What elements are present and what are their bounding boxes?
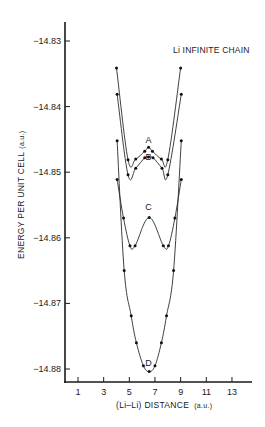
y-tick-label: −14.88 (33, 364, 61, 374)
data-point (180, 178, 183, 181)
data-point (161, 167, 164, 170)
data-point (128, 244, 131, 247)
curves (115, 66, 183, 373)
data-point (123, 269, 126, 272)
data-point (165, 314, 168, 317)
axes (64, 22, 252, 383)
data-point (166, 173, 169, 176)
data-point (147, 146, 150, 149)
data-point (166, 158, 169, 161)
y-tick-label: −14.85 (33, 167, 61, 177)
x-tick-label: 13 (227, 387, 237, 397)
curve-label-b: B (146, 152, 152, 162)
y-tick-label: −14.86 (33, 233, 61, 243)
x-tick-label: 9 (178, 387, 183, 397)
curve-label-c: C (145, 202, 152, 212)
data-point (134, 158, 137, 161)
energy-distance-chart: Li INFINITE CHAIN −14.83−14.84−14.85−14.… (0, 0, 265, 427)
y-tick-label: −14.83 (33, 36, 61, 46)
curve-c (117, 179, 181, 249)
curve-label-a: A (146, 135, 152, 145)
data-point (153, 364, 156, 367)
data-point (135, 341, 138, 344)
data-point (134, 244, 137, 247)
y-axis-label: ENERGY PER UNIT CELL(a.u.) (16, 131, 26, 259)
curve-label-d: D (145, 358, 152, 368)
data-point (134, 167, 137, 170)
y-tick-label: −14.87 (33, 298, 61, 308)
data-point (148, 370, 151, 373)
x-ticks: 135791113 (75, 377, 236, 397)
data-point (162, 244, 165, 247)
data-point (160, 341, 163, 344)
data-point (167, 244, 170, 247)
data-point (116, 139, 119, 142)
data-point (180, 93, 183, 96)
x-tick-label: 11 (202, 387, 211, 397)
data-point (160, 158, 163, 161)
x-tick-label: 7 (152, 387, 157, 397)
data-point (115, 66, 118, 69)
x-tick-label: 3 (101, 387, 106, 397)
data-point (127, 173, 130, 176)
chart-title: Li INFINITE CHAIN (173, 45, 250, 55)
data-point (172, 269, 175, 272)
x-tick-label: 5 (127, 387, 132, 397)
x-tick-label: 1 (75, 387, 80, 397)
data-point (116, 178, 119, 181)
data-point (130, 314, 133, 317)
data-point (148, 216, 151, 219)
curve-labels: ABCD (145, 135, 152, 369)
data-point (152, 156, 155, 159)
data-point (179, 66, 182, 69)
data-point (116, 93, 119, 96)
data-point (173, 217, 176, 220)
y-tick-label: −14.84 (33, 102, 61, 112)
x-axis-label: (Li–Li) DISTANCE(a.u.) (116, 400, 212, 410)
data-point (180, 139, 183, 142)
data-point (122, 217, 125, 220)
data-point (127, 158, 130, 161)
